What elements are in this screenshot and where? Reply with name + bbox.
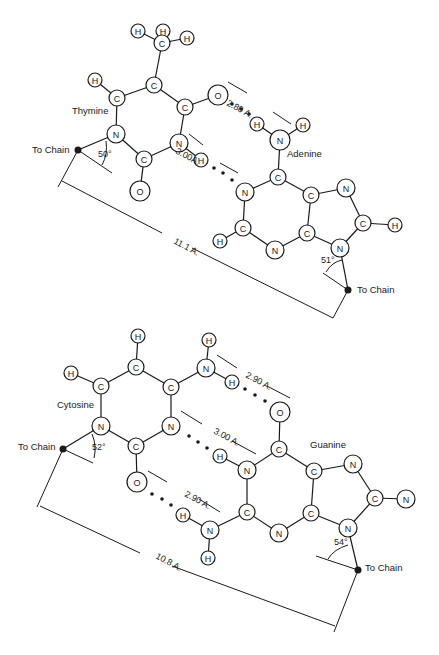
atom-c: C <box>93 378 109 394</box>
distance-label: 3.00 A. <box>212 426 241 448</box>
svg-text:H: H <box>217 237 224 247</box>
svg-text:N: N <box>272 246 279 256</box>
svg-text:C: C <box>114 94 121 104</box>
svg-text:C: C <box>275 173 282 183</box>
angle-label: 52° <box>92 442 106 452</box>
atom-c: C <box>270 169 286 185</box>
svg-text:N: N <box>242 188 249 198</box>
atom-c: C <box>177 99 193 115</box>
svg-text:H: H <box>184 34 191 44</box>
atom-o: O <box>127 472 147 492</box>
atom-h: H <box>202 333 216 347</box>
svg-text:C: C <box>141 155 148 165</box>
atom-c: C <box>146 77 162 93</box>
svg-text:C: C <box>360 219 367 229</box>
atom-n: N <box>344 455 362 473</box>
svg-text:C: C <box>168 383 175 393</box>
svg-text:O: O <box>133 478 140 488</box>
atom-n: N <box>339 519 357 537</box>
atom-c: C <box>154 35 170 51</box>
svg-text:N: N <box>207 526 214 536</box>
svg-text:C: C <box>182 103 189 113</box>
atom-n: N <box>266 241 284 259</box>
atom-h: H <box>88 73 102 87</box>
svg-text:C: C <box>308 191 315 201</box>
atom-h: H <box>225 375 239 389</box>
atom-h: H <box>250 117 264 131</box>
atom-c: C <box>239 504 255 520</box>
label-chain3: To Chain <box>18 441 56 452</box>
svg-text:C: C <box>244 508 251 518</box>
svg-text:C: C <box>308 509 315 519</box>
label-chain2: To Chain <box>357 284 395 295</box>
svg-text:H: H <box>300 121 307 131</box>
svg-text:C: C <box>159 39 166 49</box>
atom-o: O <box>208 85 228 105</box>
atom-o: O <box>130 181 150 201</box>
svg-text:C: C <box>311 467 318 477</box>
atom-n: N <box>397 490 415 508</box>
atom-n: N <box>270 130 290 150</box>
atom-n: N <box>92 417 110 435</box>
atom-c: C <box>271 441 287 457</box>
label-chain4: To Chain <box>365 562 403 573</box>
svg-text:C: C <box>133 442 140 452</box>
atom-h: H <box>64 366 78 380</box>
atom-c: C <box>303 505 319 521</box>
svg-text:N: N <box>113 130 120 140</box>
atom-n: N <box>270 524 288 542</box>
svg-text:C: C <box>133 363 140 373</box>
atom-h: H <box>131 329 145 343</box>
svg-text:H: H <box>392 221 399 231</box>
svg-text:N: N <box>350 460 357 470</box>
svg-text:N: N <box>277 136 284 146</box>
atom-c: C <box>355 215 371 231</box>
atom-h: H <box>213 449 227 463</box>
bonds <box>63 31 406 570</box>
distance-label: 3.00A. <box>174 146 202 167</box>
distance-label: 11.1 A. <box>172 236 201 258</box>
atom-o: O <box>270 402 290 422</box>
svg-text:N: N <box>403 495 410 505</box>
svg-text:C: C <box>151 81 158 91</box>
svg-text:H: H <box>68 369 75 379</box>
label-cytosine: Cytosine <box>57 399 94 410</box>
atom-n: N <box>337 179 355 197</box>
svg-text:H: H <box>92 76 99 86</box>
atom-c: C <box>109 90 125 106</box>
label-chain1: To Chain <box>32 144 70 155</box>
atom-h: H <box>176 508 190 522</box>
atom-n: N <box>107 125 125 143</box>
atom-c: C <box>128 359 144 375</box>
svg-text:O: O <box>214 91 221 101</box>
svg-text:N: N <box>345 524 352 534</box>
atom-c: C <box>235 220 251 236</box>
atom-n: N <box>238 461 256 479</box>
svg-text:H: H <box>205 554 212 564</box>
svg-text:C: C <box>240 224 247 234</box>
atom-h: H <box>131 24 145 38</box>
svg-text:H: H <box>180 511 187 521</box>
atom-c: C <box>299 225 315 241</box>
atom-c: C <box>367 490 383 506</box>
svg-text:H: H <box>217 452 224 462</box>
svg-text:H: H <box>135 332 142 342</box>
atom-c: C <box>136 151 152 167</box>
base-pair-diagram: HHHCCHCCONNCOHHHNCNCNCHCNCHNHHCHNCCHNNCO… <box>0 0 439 655</box>
atom-c: C <box>163 379 179 395</box>
atom-n: N <box>197 359 215 377</box>
atom-h: H <box>296 118 310 132</box>
svg-text:N: N <box>343 184 350 194</box>
svg-text:H: H <box>229 378 236 388</box>
distance-label: 2.90 A. <box>244 370 273 392</box>
angle-label: 50° <box>98 149 112 159</box>
label-thymine: Thymine <box>72 105 108 116</box>
atom-c: C <box>303 187 319 203</box>
svg-text:O: O <box>136 187 143 197</box>
atom-h: H <box>201 551 215 565</box>
svg-text:C: C <box>304 229 311 239</box>
svg-text:C: C <box>372 494 379 504</box>
svg-text:N: N <box>337 244 344 254</box>
svg-text:H: H <box>135 27 142 37</box>
atom-n: N <box>162 417 180 435</box>
